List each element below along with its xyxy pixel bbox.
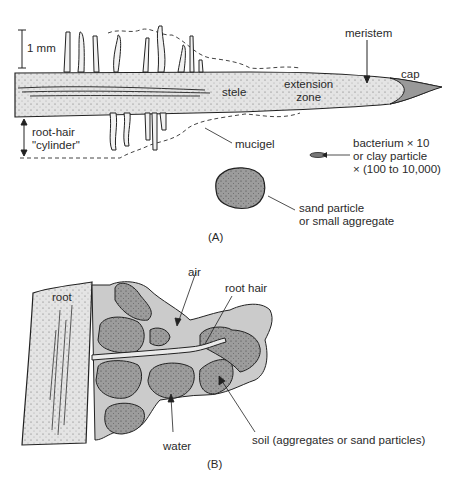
sand-particle-label-line2: or small aggregate bbox=[299, 215, 394, 228]
panel-a-label: (A) bbox=[208, 231, 223, 244]
bacterium-label: bacterium × 10 or clay particle × (100 t… bbox=[353, 137, 441, 176]
scale-bar-label: 1 mm bbox=[27, 42, 56, 55]
root-hairs-upper bbox=[64, 26, 203, 72]
diagram-canvas bbox=[0, 0, 454, 487]
panel-b-label: (B) bbox=[207, 458, 222, 471]
water-label: water bbox=[163, 440, 191, 453]
air-label: air bbox=[188, 266, 201, 279]
meristem-label: meristem bbox=[345, 27, 392, 40]
bacterium-label-line1: bacterium × 10 bbox=[353, 137, 441, 150]
scale-bar bbox=[18, 30, 26, 68]
panel-a bbox=[15, 26, 442, 210]
stele-label: stele bbox=[222, 86, 246, 99]
bacterium-label-line3: × (100 to 10,000) bbox=[353, 163, 441, 176]
root-section bbox=[22, 282, 92, 445]
root-hairs-lower bbox=[110, 113, 166, 150]
soil-label: soil (aggregates or sand particles) bbox=[252, 434, 425, 447]
extension-zone-label: extension zone bbox=[284, 78, 333, 104]
extension-zone-label-line1: extension bbox=[284, 78, 333, 91]
bacterium-icon bbox=[310, 152, 350, 158]
sand-particle bbox=[216, 168, 265, 209]
root-hair-cylinder-label-line2: "cylinder" bbox=[32, 139, 80, 152]
extension-zone-label-line2: zone bbox=[284, 91, 333, 104]
root-hair-cylinder-label-line1: root-hair bbox=[32, 126, 80, 139]
bacterium-label-line2: or clay particle bbox=[353, 150, 441, 163]
mucigel-pointer bbox=[205, 128, 232, 143]
root-hair-cylinder-arrow bbox=[21, 119, 27, 156]
root-hair-label: root hair bbox=[225, 282, 267, 295]
sand-particle-label: sand particle or small aggregate bbox=[299, 202, 394, 228]
sand-particle-label-line1: sand particle bbox=[299, 202, 394, 215]
root-hair-cylinder-label: root-hair "cylinder" bbox=[32, 126, 80, 152]
root-label: root bbox=[52, 291, 72, 304]
cap-label: cap bbox=[401, 68, 420, 81]
mucigel-label: mucigel bbox=[235, 138, 275, 151]
meristem-arrow bbox=[364, 40, 370, 83]
sand-particle-pointer bbox=[268, 196, 295, 210]
